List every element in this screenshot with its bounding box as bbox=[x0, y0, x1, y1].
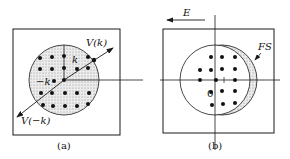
caption-a: (a) bbox=[57, 140, 71, 151]
label-fermi-surface: FS bbox=[257, 41, 272, 52]
fs-pointer-arrow bbox=[255, 53, 261, 60]
label-minus-k: −k bbox=[36, 76, 50, 87]
caption-b: (b) bbox=[208, 140, 222, 151]
label-field-e: E bbox=[182, 7, 191, 18]
label-k: k bbox=[72, 54, 78, 65]
diagram-canvas: V(k) V(−k) k −k (a) bbox=[0, 0, 290, 159]
label-v-minus-k: V(−k) bbox=[21, 115, 51, 126]
label-origin: 0 bbox=[207, 88, 213, 99]
panel-b: 0 E FS (b) bbox=[160, 7, 280, 151]
panel-a: V(k) V(−k) k −k (a) bbox=[13, 29, 143, 151]
label-vk: V(k) bbox=[86, 37, 107, 48]
